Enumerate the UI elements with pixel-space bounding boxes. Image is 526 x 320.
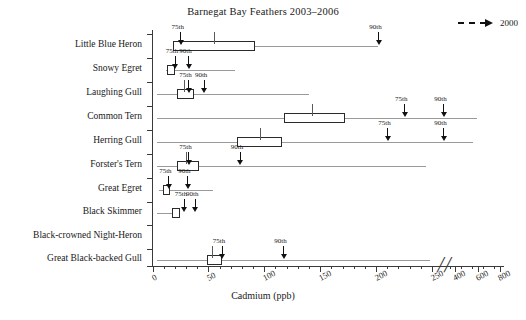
arrow-head-icon <box>186 160 192 165</box>
arrow-head-icon <box>201 88 207 93</box>
y-axis-tick <box>147 154 153 155</box>
arrow-head-icon <box>281 254 287 259</box>
category-label: Forster's Tern <box>90 160 142 170</box>
percentile-label: 90th <box>186 190 198 198</box>
arrow-head-icon <box>166 184 172 189</box>
percentile-label: 90th <box>179 47 191 55</box>
arrow-head-icon <box>186 64 192 69</box>
percentile-label: 90th <box>274 237 286 245</box>
x-axis-tick <box>331 266 332 269</box>
median-tick <box>184 80 185 92</box>
y-axis <box>152 30 153 266</box>
x-axis-tick <box>175 266 176 269</box>
x-axis-tick-label: 600 <box>474 268 490 283</box>
chart-title: Barnegat Bay Feathers 2003–2006 <box>0 6 526 17</box>
y-axis-tick <box>147 34 153 35</box>
x-axis-tick <box>298 266 299 269</box>
x-axis-tick <box>242 266 243 269</box>
x-axis-tick <box>164 266 165 269</box>
arrow-head-icon <box>219 254 225 259</box>
x-axis-tick <box>461 266 462 269</box>
category-label: Black Skimmer <box>83 207 142 217</box>
dashed-arrow-icon <box>458 19 496 27</box>
category-label: Laughing Gull <box>86 88 142 98</box>
category-label: Herring Gull <box>93 136 142 146</box>
axis-break-icon: ╱ <box>444 258 452 271</box>
x-axis-tick-label: 400 <box>451 268 467 283</box>
percentile-label: 75th <box>378 119 390 127</box>
category-label: Little Blue Heron <box>75 40 142 50</box>
median-tick <box>214 32 215 44</box>
percentile-label: 75th <box>179 71 191 79</box>
y-axis-tick <box>147 58 153 59</box>
x-axis-tick <box>186 266 187 269</box>
y-axis-tick <box>147 225 153 226</box>
x-axis-tick <box>287 266 288 269</box>
y-axis-tick <box>147 130 153 131</box>
whisker-line <box>157 260 430 261</box>
chart-legend: 2000 <box>458 18 518 28</box>
percentile-label: 75th <box>159 167 171 175</box>
x-axis-tick <box>398 266 399 269</box>
arrow-head-icon <box>385 136 391 141</box>
y-axis-tick <box>147 178 153 179</box>
arrow-head-icon <box>441 112 447 117</box>
x-axis-tick <box>354 266 355 269</box>
x-axis-tick <box>387 266 388 269</box>
x-axis-tick <box>410 266 411 269</box>
arrow-head-icon <box>237 160 243 165</box>
y-axis-tick <box>147 249 153 250</box>
category-label: Common Tern <box>87 112 142 122</box>
median-tick <box>312 104 313 116</box>
category-label: Black-crowned Night-Heron <box>33 231 142 241</box>
percentile-label: 90th <box>434 95 446 103</box>
percentile-label: 75th <box>213 237 225 245</box>
percentile-label: 75th <box>166 47 178 55</box>
x-axis-tick <box>472 266 473 269</box>
x-axis-tick-label: 50 <box>205 270 217 283</box>
median-tick <box>212 246 213 258</box>
category-label: Great Egret <box>98 184 142 194</box>
x-axis-tick <box>483 266 484 269</box>
y-axis-tick <box>147 106 153 107</box>
x-axis-tick <box>231 266 232 269</box>
x-axis-tick <box>343 266 344 269</box>
whisker-line <box>157 142 473 143</box>
x-axis-tick-label: 0 <box>150 272 158 283</box>
arrow-head-icon <box>441 136 447 141</box>
box <box>172 208 181 218</box>
arrow-head-icon <box>192 207 198 212</box>
x-axis-tick <box>309 266 310 269</box>
percentile-label: 75th <box>171 23 183 31</box>
x-axis-tick <box>197 266 198 269</box>
x-axis-label: Cadmium (ppb) <box>0 290 526 301</box>
arrow-head-icon <box>376 40 382 45</box>
category-label: Snowy Egret <box>93 64 142 74</box>
arrow-head-icon <box>186 88 192 93</box>
box <box>284 113 344 123</box>
percentile-label: 90th <box>178 167 190 175</box>
median-tick <box>260 128 261 140</box>
arrow-head-icon <box>181 207 187 212</box>
x-axis-tick-label: 800 <box>496 268 512 283</box>
percentile-label: 90th <box>231 143 243 151</box>
percentile-label: 90th <box>434 119 446 127</box>
arrow-head-icon <box>185 184 191 189</box>
x-axis-tick <box>253 266 254 269</box>
percentile-label: 90th <box>369 23 381 31</box>
percentile-label: 75th <box>395 95 407 103</box>
x-axis-tick <box>450 266 451 269</box>
percentile-label: 90th <box>195 71 207 79</box>
y-axis-tick <box>147 202 153 203</box>
x-axis-tick <box>275 266 276 269</box>
arrow-head-icon <box>402 112 408 117</box>
x-axis-tick <box>421 266 422 269</box>
arrow-head-icon <box>172 64 178 69</box>
x-axis-tick <box>494 266 495 269</box>
boxplot-chart: Barnegat Bay Feathers 2003–2006 2000 Cad… <box>0 0 526 320</box>
percentile-label: 75th <box>179 143 191 151</box>
legend-label-2000: 2000 <box>500 18 518 28</box>
x-axis-tick <box>365 266 366 269</box>
x-axis-tick <box>220 266 221 269</box>
arrow-head-icon <box>178 40 184 45</box>
